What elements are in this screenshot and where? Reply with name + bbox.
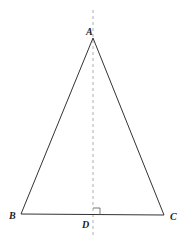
label-a: A bbox=[85, 26, 93, 37]
side-ab bbox=[21, 38, 93, 214]
label-b: B bbox=[8, 210, 16, 221]
side-bc bbox=[21, 214, 164, 215]
right-angle-marker bbox=[93, 208, 100, 215]
triangle-diagram: A B C D bbox=[0, 0, 185, 247]
label-c: C bbox=[170, 211, 177, 222]
label-d: D bbox=[81, 219, 89, 230]
side-ac bbox=[93, 38, 164, 215]
